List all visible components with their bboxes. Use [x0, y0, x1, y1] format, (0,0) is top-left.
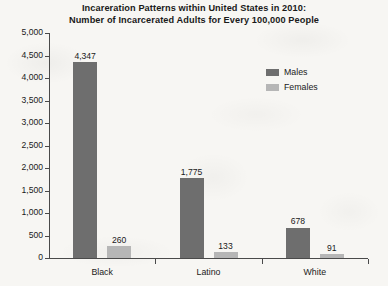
legend-label: Males	[284, 67, 307, 77]
y-axis-tick-label: 4,500	[21, 50, 43, 61]
y-axis-tick-label: 5,000	[21, 27, 43, 38]
y-axis-tick-mark	[45, 236, 50, 237]
bar-value-label: 91	[308, 243, 356, 253]
bar-white-males	[286, 228, 310, 259]
bar-value-label: 260	[95, 235, 143, 245]
chart-title-line-1: Incareration Patterns within United Stat…	[0, 3, 388, 15]
y-axis-tick-label: 3,500	[21, 95, 43, 106]
y-axis-tick-mark	[45, 146, 50, 147]
y-axis-tick-label: 500	[29, 230, 43, 241]
chart-title: Incareration Patterns within United Stat…	[0, 3, 388, 26]
y-axis-tick-label: 1,000	[21, 207, 43, 218]
y-axis-tick-mark	[45, 213, 50, 214]
y-axis-tick-label: 4,000	[21, 72, 43, 83]
legend-label: Females	[284, 82, 318, 92]
y-axis-tick-mark	[45, 78, 50, 79]
y-axis-tick-mark	[45, 33, 50, 34]
y-axis-tick-mark	[45, 56, 50, 57]
bar-latino-males	[180, 178, 204, 258]
chart-figure: Incareration Patterns within United Stat…	[0, 0, 388, 286]
y-axis-tick-mark	[45, 123, 50, 124]
y-axis-tick-label: 2,500	[21, 140, 43, 151]
x-axis-category-label: Latino	[155, 267, 261, 277]
y-axis-tick-mark	[45, 168, 50, 169]
bar-value-label: 1,775	[168, 167, 216, 177]
chart-legend: MalesFemales	[266, 66, 318, 96]
legend-swatch-icon	[266, 84, 279, 91]
y-axis-tick-label: 0	[38, 252, 43, 263]
x-axis-category-label: White	[262, 267, 368, 277]
plot-area: 5,0004,5004,0003,5003,0002,5002,0001,500…	[49, 33, 368, 258]
x-axis-category-label: Black	[49, 267, 155, 277]
legend-item-males: Males	[266, 66, 318, 78]
bar-value-label: 4,347	[61, 51, 109, 61]
x-axis-separator-tick	[368, 259, 369, 264]
bar-value-label: 133	[202, 241, 250, 251]
x-axis-separator-tick	[155, 259, 156, 264]
bar-black-females	[107, 246, 131, 258]
y-axis-tick-mark	[45, 101, 50, 102]
legend-item-females: Females	[266, 81, 318, 93]
x-axis-line	[49, 258, 368, 259]
y-axis-tick-label: 2,000	[21, 162, 43, 173]
bar-white-females	[320, 254, 344, 258]
x-axis-separator-tick	[262, 259, 263, 264]
y-axis-tick-label: 1,500	[21, 185, 43, 196]
y-axis-tick-mark	[45, 258, 50, 259]
bar-black-males	[73, 62, 97, 258]
y-axis-tick-mark	[45, 191, 50, 192]
bar-value-label: 678	[274, 216, 322, 226]
bar-latino-females	[214, 252, 238, 258]
chart-title-line-2: Number of Incarcerated Adults for Every …	[0, 15, 388, 27]
y-axis-tick-label: 3,000	[21, 117, 43, 128]
legend-swatch-icon	[266, 69, 279, 76]
